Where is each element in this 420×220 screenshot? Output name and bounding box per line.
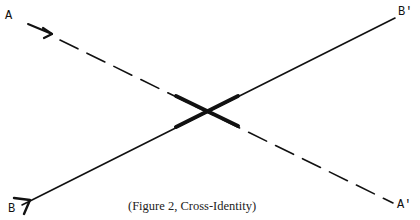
diagram-lines [0,0,420,220]
figure-caption: (Figure 2, Cross-Identity) [128,200,256,213]
arrow-b-icon [14,198,30,214]
cross-identity-figure: A B B' A' (Figure 2, Cross-Identity) [0,0,420,220]
label-a-prime: A' [397,199,411,211]
label-b-prime: B' [398,6,412,18]
cross-identity-overlap [176,96,238,127]
label-a: A [5,10,12,22]
label-b: B [8,203,15,215]
